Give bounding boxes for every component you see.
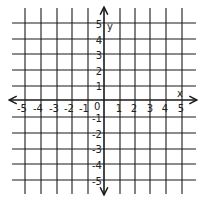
x-tick-label: -4: [33, 103, 43, 114]
y-tick-label: 5: [96, 19, 102, 30]
coordinate-grid: x y 0 -5 -4 -3 -2 -1 1 2 3 4 5 5 4 3 2 1…: [0, 0, 210, 204]
x-tick-label: -5: [17, 103, 27, 114]
x-tick-label: 4: [162, 103, 168, 114]
x-tick-label: 2: [131, 103, 137, 114]
x-tick-label: 1: [116, 103, 122, 114]
y-tick-label: -4: [92, 160, 102, 171]
y-tick-label: 3: [96, 50, 102, 61]
x-tick-label: -2: [64, 103, 74, 114]
y-tick-label: 1: [96, 81, 102, 92]
origin-label: 0: [94, 101, 100, 112]
y-tick-label: -2: [92, 129, 102, 140]
x-tick-label: 3: [147, 103, 153, 114]
x-axis-label: x: [177, 88, 183, 99]
x-tick-label: 5: [178, 103, 184, 114]
y-tick-label: 4: [96, 35, 102, 46]
y-axis-label: y: [107, 21, 113, 32]
y-tick-label: -5: [92, 176, 102, 187]
y-tick-label: 2: [96, 66, 102, 77]
y-tick-label: -3: [92, 144, 102, 155]
x-tick-label: -3: [49, 103, 59, 114]
y-tick-label: -1: [92, 113, 102, 124]
x-tick-label: -1: [79, 103, 89, 114]
